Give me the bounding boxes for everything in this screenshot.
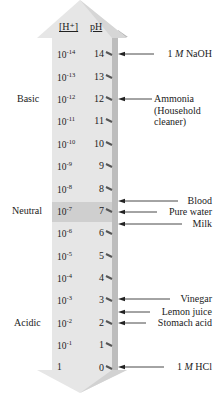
concentration-exponent: -1: [67, 339, 72, 346]
concentration-exponent: -2: [67, 317, 72, 324]
molarity-unit: M: [184, 361, 192, 372]
concentration-base: 10: [57, 229, 67, 239]
concentration-value: 10-13: [57, 72, 75, 84]
concentration-value: 10-6: [57, 228, 72, 240]
concentration-header: [H⁺]: [59, 22, 78, 32]
compound-name: NaOH: [183, 48, 212, 59]
concentration-base: 10: [57, 162, 67, 172]
ph-value: 2: [88, 318, 104, 328]
concentration-base: 10: [57, 341, 67, 351]
concentration-base: 1: [57, 362, 62, 372]
region-label-acidic: Acidic: [14, 318, 41, 328]
ph-value: 13: [88, 72, 104, 82]
concentration-base: 10: [57, 73, 67, 83]
concentration-exponent: -4: [67, 272, 72, 279]
substance-label-vinegar: Vinegar: [180, 294, 212, 304]
concentration-base: 10: [57, 207, 67, 217]
concentration-base: 10: [57, 252, 67, 262]
concentration-base: 10: [57, 117, 67, 127]
ph-value: 3: [88, 295, 104, 305]
arrowhead-icon: [118, 52, 125, 56]
arrowhead-icon: [118, 365, 125, 369]
ph-header: pH: [90, 22, 102, 32]
molarity-value: 1: [168, 48, 176, 59]
arrowhead-icon: [118, 297, 125, 301]
substance-label-hcl: 1 M HCl: [177, 362, 212, 372]
concentration-exponent: -7: [67, 205, 72, 212]
concentration-exponent: -8: [67, 183, 72, 190]
concentration-value: 10-3: [57, 295, 72, 307]
substance-label-blood: Blood: [188, 196, 212, 206]
arrowhead-icon: [118, 210, 125, 214]
concentration-value: 10-2: [57, 318, 72, 330]
arrowhead-icon: [118, 97, 125, 101]
concentration-value: 10-1: [57, 340, 72, 352]
ph-value: 7: [88, 206, 104, 216]
substance-label-pure-water: Pure water: [169, 207, 212, 217]
ph-value: 6: [88, 228, 104, 238]
concentration-exponent: -12: [67, 93, 76, 100]
concentration-exponent: -11: [67, 115, 75, 122]
ph-value: 0: [88, 363, 104, 373]
concentration-value: 1: [57, 363, 62, 373]
ph-value: 8: [88, 184, 104, 194]
region-label-basic: Basic: [17, 94, 39, 104]
concentration-base: 10: [57, 274, 67, 284]
ph-value: 11: [88, 116, 104, 126]
substance-label-lemon-juice: Lemon juice: [162, 307, 212, 317]
concentration-base: 10: [57, 140, 67, 150]
arrow-shaft-shadow: [112, 38, 118, 372]
concentration-value: 10-8: [57, 184, 72, 196]
concentration-exponent: -13: [67, 71, 76, 78]
concentration-exponent: -5: [67, 250, 72, 257]
substance-label-stomach-acid: Stomach acid: [158, 318, 212, 328]
concentration-value: 10-10: [57, 139, 75, 151]
ph-value: 14: [88, 49, 104, 59]
ph-value: 9: [88, 161, 104, 171]
region-label-neutral: Neutral: [12, 206, 42, 216]
arrowhead-icon: [118, 199, 125, 203]
ph-value: 4: [88, 273, 104, 283]
concentration-exponent: -14: [67, 48, 76, 55]
arrowhead-icon: [118, 222, 125, 226]
concentration-value: 10-5: [57, 251, 72, 263]
concentration-exponent: -6: [67, 227, 72, 234]
concentration-exponent: -10: [67, 138, 76, 145]
ph-value: 5: [88, 251, 104, 261]
concentration-value: 10-12: [57, 94, 75, 106]
concentration-value: 10-14: [57, 49, 75, 61]
ph-value: 12: [88, 94, 104, 104]
concentration-base: 10: [57, 185, 67, 195]
ph-value: 1: [88, 340, 104, 350]
concentration-value: 10-9: [57, 161, 72, 173]
ph-value: 10: [88, 139, 104, 149]
substance-label-ammonia: Ammonia (Household cleaner): [154, 93, 201, 128]
arrowhead-icon: [118, 321, 125, 325]
concentration-base: 10: [57, 319, 67, 329]
substance-label-naoh: 1 M NaOH: [168, 49, 212, 59]
concentration-exponent: -3: [67, 294, 72, 301]
concentration-value: 10-4: [57, 273, 72, 285]
arrowhead-icon: [118, 310, 125, 314]
substance-label-milk: Milk: [193, 219, 212, 229]
compound-name: HCl: [193, 361, 212, 372]
concentration-base: 10: [57, 95, 67, 105]
concentration-value: 10-11: [57, 116, 75, 128]
concentration-base: 10: [57, 296, 67, 306]
ph-scale-diagram: [H⁺] pH BasicNeutralAcidic 10-141410-131…: [0, 0, 215, 393]
concentration-base: 10: [57, 50, 67, 60]
concentration-value: 10-7: [57, 206, 72, 218]
concentration-exponent: -9: [67, 160, 72, 167]
